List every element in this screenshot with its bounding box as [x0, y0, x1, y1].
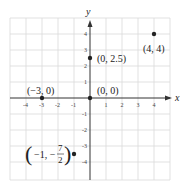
- svg-text:-2: -2: [55, 102, 60, 108]
- y-axis-arrow-icon: [88, 20, 93, 27]
- svg-text:4: 4: [153, 102, 156, 108]
- svg-text:3: 3: [137, 102, 140, 108]
- label-0-2.5: (0, 2.5): [97, 53, 126, 65]
- svg-text:2: 2: [58, 155, 63, 165]
- svg-text:-4: -4: [23, 102, 28, 108]
- label-origin: (0, 0): [97, 85, 119, 97]
- svg-text:4: 4: [84, 31, 87, 37]
- point-neg1-neg3.5: [72, 152, 76, 156]
- x-tick-labels: -4 -3 -2 -1 1 2 3 4: [23, 102, 156, 108]
- svg-text:-2: -2: [82, 127, 87, 133]
- x-axis-arrow-icon: [165, 96, 172, 101]
- svg-text:2: 2: [121, 102, 124, 108]
- point-0-2.5: [88, 56, 92, 60]
- point-4-4: [152, 32, 156, 36]
- svg-text:-3: -3: [39, 102, 44, 108]
- svg-text:1: 1: [105, 102, 108, 108]
- x-axis-label: x: [174, 92, 180, 103]
- svg-text:-1: -1: [71, 102, 76, 108]
- svg-text:(: (: [25, 141, 32, 166]
- svg-text:1: 1: [84, 79, 87, 85]
- svg-text:2: 2: [84, 63, 87, 69]
- y-axis-label: y: [85, 6, 91, 17]
- svg-text:-3: -3: [82, 143, 87, 149]
- label-neg3-0: (−3, 0): [27, 85, 54, 97]
- label-4-4: (4, 4): [143, 43, 165, 55]
- svg-text:−1, −: −1, −: [34, 149, 56, 160]
- svg-text:-1: -1: [82, 111, 87, 117]
- svg-text:-4: -4: [82, 159, 87, 165]
- svg-text:): ): [64, 141, 71, 166]
- svg-text:7: 7: [58, 143, 63, 153]
- coordinate-plane: x y -4 -3 -2 -1 1 2 3 4 4 3 2 1 -1 -2 -3…: [0, 0, 188, 194]
- svg-text:3: 3: [84, 47, 87, 53]
- point-neg3-0: [40, 96, 44, 100]
- point-origin: [88, 96, 92, 100]
